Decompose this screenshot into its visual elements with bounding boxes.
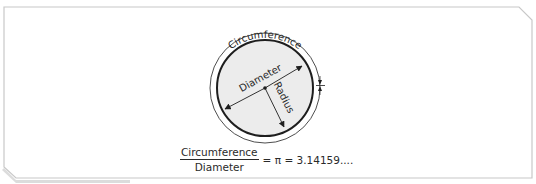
center-dot <box>263 86 267 90</box>
formula-numerator: Circumference <box>180 146 259 160</box>
fraction: Circumference Diameter <box>180 146 259 173</box>
formula-result: = π = 3.14159.... <box>263 154 354 166</box>
circle-diagram: Circumference Diameter Radius Circumfere… <box>0 0 536 184</box>
pi-formula: Circumference Diameter = π = 3.14159.... <box>180 146 353 173</box>
formula-denominator: Diameter <box>195 160 244 173</box>
